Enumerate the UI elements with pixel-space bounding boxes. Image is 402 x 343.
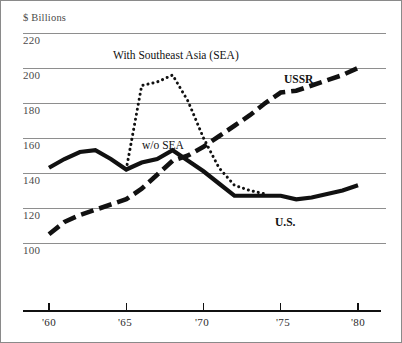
plot-area	[1, 1, 402, 343]
series-line-u-s	[49, 150, 358, 199]
chart-figure: $ Billions 220 200 180 160 140 120 100 '…	[0, 0, 402, 343]
series-line-w-o-sea	[126, 75, 265, 194]
x-axis	[23, 303, 381, 311]
data-series-layer	[49, 68, 358, 234]
